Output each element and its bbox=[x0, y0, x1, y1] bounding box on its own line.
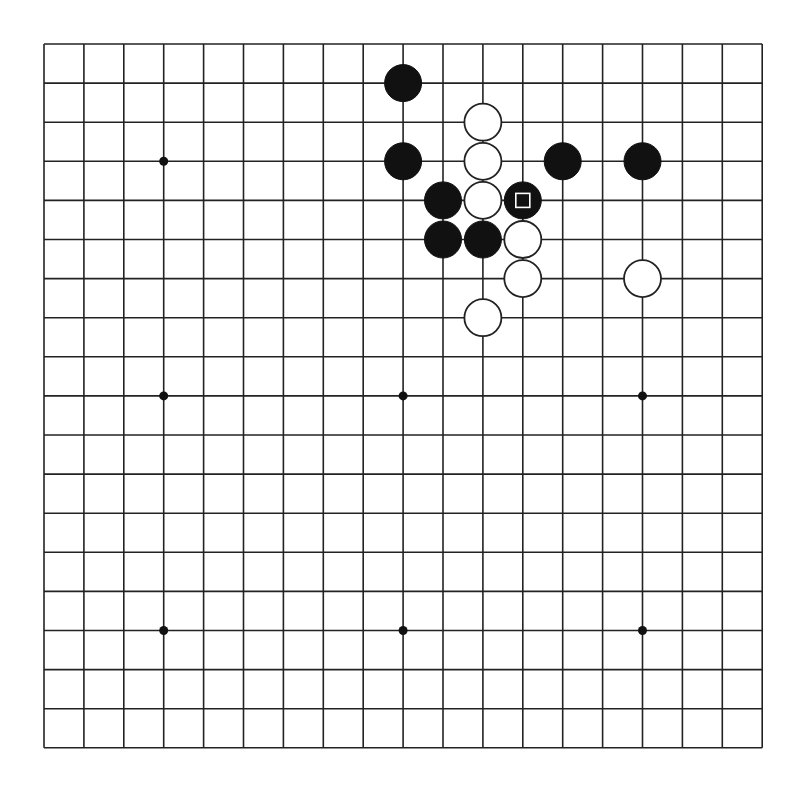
star-point bbox=[638, 391, 647, 400]
go-board[interactable] bbox=[0, 0, 804, 786]
black-stone bbox=[504, 182, 541, 219]
star-point bbox=[399, 626, 408, 635]
black-stone bbox=[425, 182, 462, 219]
white-stone bbox=[504, 260, 541, 297]
star-point bbox=[399, 391, 408, 400]
black-stone bbox=[624, 143, 661, 180]
star-point bbox=[159, 391, 168, 400]
white-stone bbox=[504, 221, 541, 258]
white-stone bbox=[464, 104, 501, 141]
white-stone bbox=[464, 299, 501, 336]
star-point bbox=[159, 157, 168, 166]
white-stone bbox=[624, 260, 661, 297]
black-stone bbox=[425, 221, 462, 258]
black-stone bbox=[544, 143, 581, 180]
black-stone bbox=[385, 143, 422, 180]
black-stone bbox=[464, 221, 501, 258]
black-stone bbox=[385, 65, 422, 102]
star-point bbox=[638, 626, 647, 635]
white-stone bbox=[464, 143, 501, 180]
white-stone bbox=[464, 182, 501, 219]
star-point bbox=[159, 626, 168, 635]
